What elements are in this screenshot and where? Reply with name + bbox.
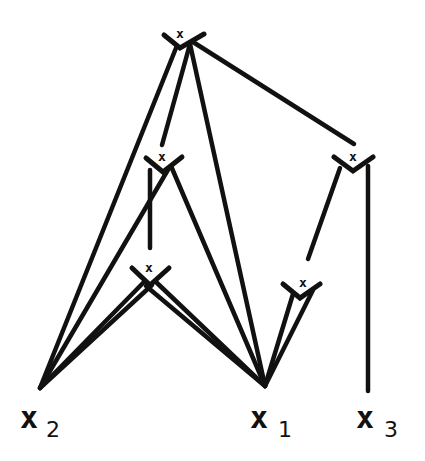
edge-top-to-x2 [40, 48, 176, 388]
node-low-left: x [132, 260, 169, 285]
tree-diagram: x x x x x x 2 x 1 x 3 [0, 0, 425, 461]
leaf-x3: x 3 [356, 400, 398, 442]
edge-mid-right-to-low-right [308, 168, 340, 259]
leaf-x1-label: x [250, 400, 268, 435]
edge-low-left-to-x2-b [40, 285, 152, 388]
edge-low-left-to-x1-b [156, 282, 265, 386]
node-low-right: x [283, 275, 320, 298]
edge-top-to-mid-left [162, 44, 190, 145]
edges [40, 42, 368, 391]
edge-top-to-mid-right [193, 42, 354, 144]
leaf-x2-subscript: 2 [46, 417, 60, 442]
node-label: x [299, 275, 307, 290]
node-label: x [349, 149, 357, 164]
node-label: x [158, 149, 166, 164]
leaf-x3-label: x [356, 400, 374, 435]
leaf-x1-subscript: 1 [278, 417, 292, 442]
leaf-x2: x 2 [20, 400, 60, 442]
leaf-x1: x 1 [250, 400, 292, 442]
edge-mid-left-to-x1 [171, 166, 265, 386]
leaf-x3-subscript: 3 [384, 417, 398, 442]
node-label: x [145, 260, 153, 275]
leaf-x2-label: x [20, 400, 38, 435]
node-label: x [176, 26, 184, 41]
